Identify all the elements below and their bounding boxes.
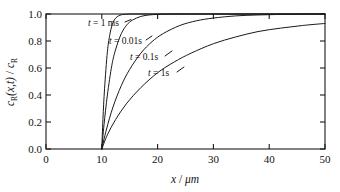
x-tick-label: 40	[264, 153, 276, 165]
curve-annotations: t = 1 ms t = 0.01s t = 0.1s t = 1s	[88, 18, 169, 78]
x-tick-label: 10	[96, 153, 108, 165]
y-axis-title-arg: (x,t)	[4, 77, 17, 96]
curve-label-t-0.01s: t = 0.01s	[109, 36, 142, 46]
x-axis-ticks	[46, 14, 325, 149]
y-tick-label: 0.0	[28, 143, 42, 155]
data-curves	[102, 14, 325, 149]
svg-text:x / μm: x / μm	[170, 173, 199, 186]
x-axis-title: x / μm	[170, 173, 199, 186]
curve-label-t-0.1s: t = 0.1s	[130, 52, 159, 62]
figure-root: 0.0 0.2 0.4 0.6 0.8 1.0 0 10 20 30 40 50…	[0, 0, 340, 192]
x-tick-label: 0	[43, 153, 49, 165]
x-tick-labels: 0 10 20 30 40 50	[43, 153, 331, 165]
plot-frame	[46, 14, 325, 149]
curve-t-0.1s	[102, 14, 325, 149]
y-tick-label: 0.8	[28, 35, 42, 47]
x-axis-title-unit: μm	[184, 173, 199, 186]
x-axis-title-slash: /	[176, 173, 185, 185]
y-tick-label: 1.0	[28, 8, 42, 20]
svg-text:cR(x,t) / cR: cR(x,t) / cR	[4, 58, 19, 106]
x-tick-label: 50	[320, 153, 332, 165]
y-tick-labels: 0.0 0.2 0.4 0.6 0.8 1.0	[28, 8, 42, 155]
y-axis-title-sub2: R	[10, 58, 19, 63]
y-axis-title-slash: /	[4, 68, 16, 77]
y-tick-label: 0.2	[28, 116, 42, 128]
y-axis-ticks	[46, 14, 325, 149]
x-tick-label: 20	[152, 153, 164, 165]
curve-t-1ms	[102, 14, 325, 149]
y-tick-label: 0.6	[28, 62, 42, 74]
diffusion-profile-chart: 0.0 0.2 0.4 0.6 0.8 1.0 0 10 20 30 40 50…	[0, 0, 340, 192]
y-tick-label: 0.4	[28, 89, 42, 101]
x-tick-label: 30	[208, 153, 220, 165]
curve-label-text-0: = 1 ms	[91, 18, 120, 28]
chart-canvas: 0.0 0.2 0.4 0.6 0.8 1.0 0 10 20 30 40 50…	[0, 0, 340, 192]
curve-label-t-1s: t = 1s	[148, 68, 169, 78]
y-axis-title: cR(x,t) / cR	[4, 58, 19, 106]
curve-t-0.01s	[102, 14, 325, 149]
curve-label-t-1ms: t = 1 ms	[88, 18, 119, 28]
